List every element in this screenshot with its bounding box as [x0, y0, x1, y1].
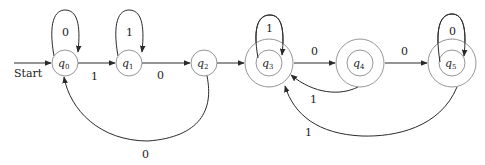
label-loop-q1: 1 [126, 26, 133, 39]
svg-text:q: q [58, 57, 65, 70]
label-loop-q5: 0 [449, 25, 456, 38]
svg-text:q: q [445, 57, 452, 70]
start-label: Start [14, 67, 43, 80]
label-q0-q1: 1 [91, 70, 98, 83]
label-q2-q0: 0 [142, 148, 149, 161]
label-q3-q4: 0 [311, 45, 318, 58]
state-q3-accepting: q 3 [245, 39, 293, 87]
label-q4-q3: 1 [310, 93, 317, 106]
svg-text:3: 3 [269, 63, 273, 71]
state-q2: q 2 [191, 50, 217, 76]
svg-text:q: q [197, 57, 204, 70]
svg-text:q: q [122, 57, 129, 70]
label-q1-q2: 0 [157, 69, 164, 82]
svg-text:q: q [353, 57, 360, 70]
state-q4-accepting: q 4 [336, 39, 384, 87]
svg-text:1: 1 [129, 63, 133, 71]
svg-text:2: 2 [204, 63, 208, 71]
label-loop-q3: 1 [266, 22, 273, 35]
label-q4-q5: 0 [401, 45, 408, 58]
label-q5-q3: 1 [305, 126, 312, 139]
state-q5-accepting: q 5 [428, 39, 476, 87]
label-loop-q0: 0 [62, 26, 69, 39]
svg-text:4: 4 [360, 63, 365, 71]
state-q1: q 1 [116, 50, 142, 76]
svg-text:5: 5 [452, 63, 456, 71]
svg-text:0: 0 [65, 63, 69, 71]
state-diagram: Start 0 1 1 0 1 0 0 0 1 1 [0, 0, 485, 165]
edge-q2-q0 [64, 76, 209, 141]
state-q0: q 0 [52, 50, 78, 76]
svg-text:q: q [262, 57, 269, 70]
